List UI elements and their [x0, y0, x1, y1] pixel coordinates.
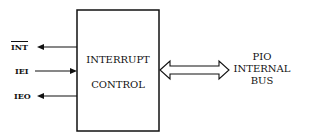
bus-label: PIO INTERNAL BUS	[232, 51, 292, 87]
int-arrowhead-icon	[37, 44, 44, 50]
bus-double-arrow-icon	[160, 61, 229, 79]
bus-label-line2: INTERNAL	[232, 63, 292, 75]
ieo-label: IEO	[14, 92, 31, 100]
iei-label: IEI	[15, 67, 29, 75]
int-label: INT	[11, 43, 28, 51]
bus-label-line3: BUS	[232, 75, 292, 87]
bus-label-line1: PIO	[232, 51, 292, 63]
ieo-arrowhead-icon	[37, 93, 44, 99]
block-title-line1: INTERRUPT	[77, 54, 159, 65]
block-title-line2: CONTROL	[77, 79, 159, 90]
interrupt-control-block	[77, 10, 159, 131]
iei-arrowhead-icon	[70, 68, 77, 74]
